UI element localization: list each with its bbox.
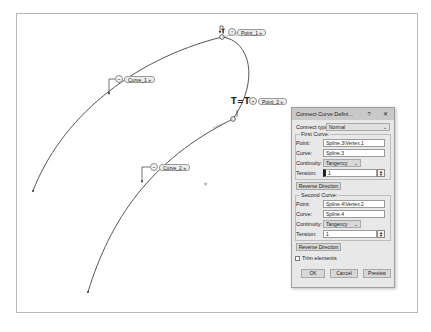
origin-marker: × — [203, 180, 208, 187]
second-reverse-direction-button[interactable]: Reverse Direction — [296, 243, 341, 251]
point-1-label: Point_1 — [241, 30, 258, 36]
trim-elements-checkbox[interactable] — [295, 256, 300, 261]
curve-2-label: Curve_2 — [163, 165, 182, 171]
curve-1-tag[interactable]: ~ Curve_1 » — [115, 75, 155, 83]
help-icon[interactable]: ? — [364, 111, 374, 117]
curve-2-tag[interactable]: ~ Curve_2 » — [150, 163, 190, 171]
curve-1-label: Curve_1 — [128, 77, 147, 83]
second-continuity-select[interactable]: Tangency⌄ — [323, 220, 361, 228]
second-curve-label: Second Curve: — [300, 192, 338, 198]
cancel-button[interactable]: Cancel — [330, 269, 358, 278]
dialog-title: Connect Curve Defini... — [296, 111, 364, 117]
connect-type-select[interactable]: Normal⌄ — [326, 123, 390, 131]
first-tension-field[interactable]: 1 — [323, 169, 377, 177]
curve-icon: ~ — [115, 75, 123, 83]
point-2-label: Point_2 — [262, 99, 279, 105]
second-curve-field-label: Curve: — [296, 211, 323, 217]
second-point-field[interactable]: Spline.4\Vertex.2 — [323, 200, 385, 208]
first-curve-label: First Curve: — [300, 131, 330, 137]
up-arrow-icon: ↑ — [228, 28, 236, 36]
first-point-label: Point: — [296, 140, 323, 146]
first-curve-field-label: Curve: — [296, 150, 323, 156]
chevron-down-icon: ⌄ — [354, 160, 358, 166]
first-continuity-select[interactable]: Tangency⌄ — [323, 159, 361, 167]
curve-icon: ~ — [150, 163, 158, 171]
first-point-field[interactable]: Spline.3\Vertex.1 — [323, 139, 385, 147]
connect-curve-dialog: Connect Curve Defini... ? ✕ Connect type… — [291, 107, 395, 288]
curve-1 — [33, 37, 222, 191]
point-2-tag[interactable]: + Point_2 » — [249, 97, 287, 105]
curve-2 — [88, 119, 233, 292]
first-tension-spinner[interactable]: ▲▼ — [377, 169, 385, 177]
second-tension-field[interactable]: 1 — [323, 230, 377, 238]
first-continuity-label: Continuity: — [296, 160, 323, 166]
connect-type-row: Connect type : Normal⌄ — [296, 123, 390, 131]
point-1-tag[interactable]: ↑ Point_1 » — [228, 28, 266, 36]
trim-elements-row[interactable]: Trim elements — [295, 254, 337, 262]
second-continuity-label: Continuity: — [296, 221, 323, 227]
second-curve-field[interactable]: Spline.4 — [323, 210, 385, 218]
connect-type-label: Connect type : — [296, 124, 326, 130]
second-tension-spinner[interactable]: ▲▼ — [377, 230, 385, 238]
second-point-label: Point: — [296, 201, 323, 207]
connect-curve — [222, 37, 249, 119]
plus-icon: + — [249, 97, 257, 105]
chevron-down-icon: ⌄ — [383, 124, 387, 130]
second-tension-label: Tension: — [296, 231, 323, 237]
first-curve-field[interactable]: Spline.3 — [323, 149, 385, 157]
close-icon[interactable]: ✕ — [380, 111, 390, 117]
chevron-down-icon: ⌄ — [354, 221, 358, 227]
first-tension-label: Tension: — [296, 170, 323, 176]
trim-elements-label: Trim elements — [302, 255, 337, 261]
tangency-marker-2: T=T — [231, 97, 250, 106]
ok-button[interactable]: OK — [301, 269, 325, 278]
dialog-title-bar[interactable]: Connect Curve Defini... ? ✕ — [292, 108, 394, 120]
preview-button[interactable]: Preview — [363, 269, 391, 278]
first-reverse-direction-button[interactable]: Reverse Direction — [296, 182, 341, 190]
tangency-marker-1: T — [221, 27, 226, 34]
